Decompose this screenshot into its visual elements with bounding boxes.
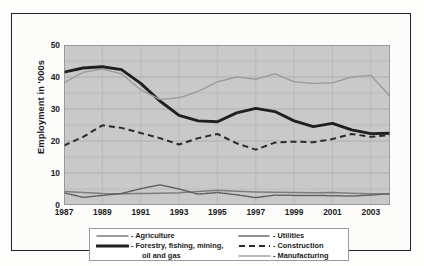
y-tick-label-50: 50 bbox=[42, 41, 60, 49]
series-line-manufacturing bbox=[64, 69, 390, 99]
x-tick-label-1989: 1989 bbox=[85, 208, 119, 216]
y-tick-label-30: 30 bbox=[42, 105, 60, 113]
chart-lines-svg bbox=[64, 45, 390, 205]
legend-item-label: - Agriculture bbox=[131, 231, 175, 240]
x-tick-label-1993: 1993 bbox=[162, 208, 196, 216]
legend-item[interactable]: - Construction bbox=[238, 241, 328, 251]
legend-item[interactable]: - Manufacturing bbox=[238, 251, 328, 261]
y-axis-tick-labels: 50403020100 bbox=[38, 45, 60, 205]
legend-column-right: - Utilities- Construction- Manufacturing bbox=[238, 231, 328, 261]
legend-item[interactable]: - Utilities bbox=[238, 231, 328, 241]
x-tick-label-1987: 1987 bbox=[47, 208, 81, 216]
solid-thick-line-icon bbox=[96, 241, 129, 250]
legend-item-label: - Forestry, fishing, mining, bbox=[131, 241, 223, 250]
x-tick-label-2003: 2003 bbox=[354, 208, 388, 216]
legend-item-label-line2: oil and gas bbox=[142, 251, 223, 260]
dotted-fine-line-icon bbox=[238, 231, 271, 240]
x-tick-label-2001: 2001 bbox=[315, 208, 349, 216]
x-tick-label-1999: 1999 bbox=[277, 208, 311, 216]
legend-item[interactable]: - Agriculture bbox=[96, 231, 223, 241]
dotted-light-line-icon bbox=[238, 251, 271, 260]
solid-thin-line-icon bbox=[96, 231, 129, 240]
figure-frame: Employment in '000s 50403020100 19871989… bbox=[11, 13, 411, 251]
legend-item-label: - Construction bbox=[273, 241, 324, 250]
legend-item[interactable]: - Forestry, fishing, mining, bbox=[96, 241, 223, 251]
x-tick-label-1995: 1995 bbox=[200, 208, 234, 216]
dashed-line-icon bbox=[238, 241, 271, 250]
series-line-construction bbox=[64, 125, 390, 149]
y-tick-label-10: 10 bbox=[42, 169, 60, 177]
y-tick-label-20: 20 bbox=[42, 137, 60, 145]
x-axis-tick-labels: 198719891991199319951997199920012003 bbox=[64, 208, 390, 222]
plot-area bbox=[64, 45, 390, 205]
legend-item-label: - Manufacturing bbox=[273, 251, 328, 260]
legend-item-label: - Utilities bbox=[273, 231, 304, 240]
x-tick-label-1997: 1997 bbox=[239, 208, 273, 216]
legend-column-left: - Agriculture- Forestry, fishing, mining… bbox=[96, 231, 223, 260]
y-tick-label-40: 40 bbox=[42, 73, 60, 81]
x-tick-label-1991: 1991 bbox=[124, 208, 158, 216]
chart-legend: - Agriculture- Forestry, fishing, mining… bbox=[89, 228, 349, 261]
